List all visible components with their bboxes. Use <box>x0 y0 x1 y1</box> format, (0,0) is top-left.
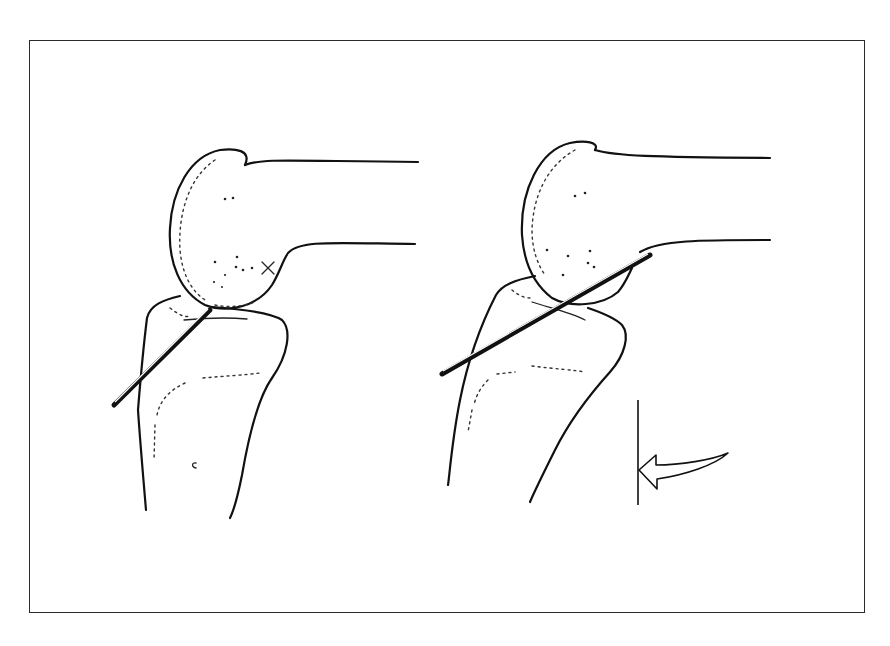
right-panel <box>442 142 770 505</box>
right-femur <box>522 142 770 305</box>
left-instrument-rod <box>114 309 210 405</box>
right-tibia <box>448 276 626 502</box>
left-femur <box>170 149 418 308</box>
left-panel <box>114 149 418 518</box>
left-tibia <box>138 296 287 518</box>
right-instrument-rod <box>442 254 650 374</box>
figure-drawing <box>0 0 890 646</box>
curved-arrow-icon <box>639 453 728 489</box>
x-mark-icon <box>262 262 274 274</box>
